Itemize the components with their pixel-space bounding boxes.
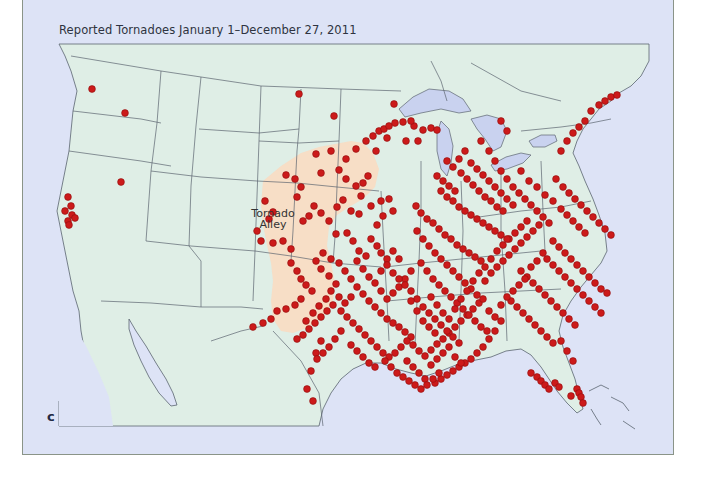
tornado-report-dot	[408, 268, 415, 275]
tornado-report-dot	[476, 270, 483, 277]
tornado-report-dot	[518, 168, 525, 175]
tornado-report-dot	[556, 384, 563, 391]
tornado-report-dot	[298, 296, 305, 303]
tornado-report-dot	[350, 320, 357, 327]
tornado-report-dot	[270, 240, 277, 247]
tornado-report-dot	[338, 328, 345, 335]
tornado-report-dot	[550, 198, 557, 205]
tornado-report-dot	[424, 216, 431, 223]
tornado-report-dot	[424, 382, 431, 389]
tornado-report-dot	[412, 382, 419, 389]
tornado-report-dot	[360, 180, 367, 187]
tornado-report-dot	[568, 393, 575, 400]
tornado-report-dot	[440, 178, 447, 185]
tornado-report-dot	[464, 288, 471, 295]
tornado-report-dot	[528, 202, 535, 209]
tornado-report-dot	[466, 312, 473, 319]
tornado-report-dot	[586, 298, 593, 305]
tornado-report-dot	[450, 198, 457, 205]
tornado-report-dot	[530, 228, 537, 235]
tornado-report-dot	[408, 118, 415, 125]
tornado-report-dot	[520, 310, 527, 317]
tornado-report-dot	[390, 270, 397, 277]
tornado-report-dot	[514, 304, 521, 311]
tornado-report-dot	[374, 222, 381, 229]
tornado-report-dot	[504, 128, 511, 135]
tornado-report-dot	[294, 336, 301, 343]
tornado-report-dot	[122, 110, 129, 117]
tornado-report-dot	[480, 172, 487, 179]
tornado-report-dot	[250, 324, 257, 331]
tornado-report-dot	[510, 184, 517, 191]
tornado-report-dot	[434, 127, 441, 134]
tornado-report-dot	[602, 226, 609, 233]
tornado-report-dot	[436, 282, 443, 289]
tornado-report-dot	[492, 228, 499, 235]
tornado-report-dot	[380, 350, 387, 357]
tornado-report-dot	[336, 260, 343, 267]
tornado-report-dot	[418, 260, 425, 267]
tornado-report-dot	[438, 188, 445, 195]
tornado-report-dot	[568, 280, 575, 287]
tornado-report-dot	[526, 178, 533, 185]
map-figure-frame: Reported Tornadoes January 1–December 27…	[22, 0, 674, 455]
tornado-report-dot	[480, 296, 487, 303]
tornado-report-dot	[342, 300, 349, 307]
tornado-report-dot	[486, 224, 493, 231]
tornado-report-dot	[378, 310, 385, 317]
tornado-report-dot	[492, 158, 499, 165]
tornado-report-dot	[548, 298, 555, 305]
tornado-report-dot	[518, 224, 525, 231]
tornado-report-dot	[614, 92, 621, 99]
tornado-report-dot	[488, 270, 495, 277]
tornado-report-dot	[534, 184, 541, 191]
tornado-report-dot	[596, 220, 603, 227]
tornado-report-dot	[280, 238, 287, 245]
tornado-report-dot	[572, 196, 579, 203]
tornado-report-dot	[323, 296, 330, 303]
tornado-report-dot	[498, 118, 505, 125]
tornado-report-dot	[424, 268, 431, 275]
tornado-report-dot	[353, 146, 360, 153]
tornado-report-dot	[426, 310, 433, 317]
tornado-report-dot	[562, 250, 569, 257]
tornado-report-dot	[456, 340, 463, 347]
tornado-report-dot	[572, 322, 579, 329]
tornado-report-dot	[472, 254, 479, 261]
tornado-report-dot	[484, 328, 491, 335]
tornado-report-dot	[428, 347, 435, 354]
tornado-report-dot	[504, 236, 511, 243]
tornado-report-dot	[444, 328, 451, 335]
tornado-report-dot	[500, 258, 507, 265]
tornado-report-dot	[434, 302, 441, 309]
tornado-report-dot	[396, 324, 403, 331]
tornado-report-dot	[518, 240, 525, 247]
tornado-report-dot	[430, 276, 437, 283]
tornado-report-dot	[448, 294, 455, 301]
tornado-report-dot	[458, 170, 465, 177]
tornado-report-dot	[518, 268, 525, 275]
tornado-report-dot	[466, 250, 473, 257]
tornado-report-dot	[570, 218, 577, 225]
tornado-report-dot	[413, 203, 420, 210]
tornado-report-dot	[370, 133, 377, 140]
tornado-report-dot	[326, 273, 333, 280]
tornado-report-dot	[344, 230, 351, 237]
tornado-report-dot	[468, 160, 475, 167]
tornado-report-dot	[318, 210, 325, 217]
tornado-report-dot	[482, 278, 489, 285]
tornado-report-dot	[360, 291, 367, 298]
tornado-report-dot	[388, 364, 395, 371]
tornado-report-dot	[414, 228, 421, 235]
tornado-report-dot	[416, 348, 423, 355]
tornado-report-dot	[343, 156, 350, 163]
tornado-report-dot	[536, 286, 543, 293]
tornado-report-dot	[536, 222, 543, 229]
tornado-report-dot	[360, 266, 367, 273]
tornado-report-dot	[596, 102, 603, 109]
tornado-report-dot	[343, 176, 350, 183]
tornado-report-dot	[462, 208, 469, 215]
tornado-report-dot	[456, 274, 463, 281]
tornado-report-dot	[402, 282, 409, 289]
tornado-report-dot	[530, 280, 537, 287]
